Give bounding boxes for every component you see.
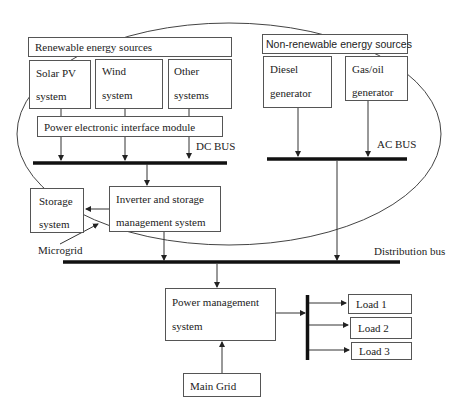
ac-bus-label: AC BUS xyxy=(377,138,416,150)
inverter-label-1: Inverter and storage xyxy=(116,193,204,205)
wind-label-2: system xyxy=(102,89,133,101)
solar-pv-box: Solar PV system xyxy=(29,60,91,109)
dc-bus-label: DC BUS xyxy=(196,140,235,152)
gas-oil-generator-box: Gas/oil generator xyxy=(345,56,408,101)
other-systems-label-1: Other xyxy=(174,65,199,77)
solar-pv-label-1: Solar PV xyxy=(36,67,76,79)
diesel-generator-label-1: Diesel xyxy=(270,63,298,75)
load-3-box: Load 3 xyxy=(351,342,412,360)
gas-oil-generator-label-2: generator xyxy=(352,86,394,98)
load-1-label: Load 1 xyxy=(356,298,387,310)
diesel-generator-box: Diesel generator xyxy=(263,56,332,108)
other-systems-box: Other systems xyxy=(168,59,232,109)
wind-label-1: Wind xyxy=(102,65,126,77)
distribution-bus-label: Distribution bus xyxy=(374,245,445,257)
power-management-label-1: Power management xyxy=(172,296,259,308)
load-1-box: Load 1 xyxy=(348,294,412,314)
wind-box: Wind system xyxy=(95,59,163,109)
inverter-storage-management-box: Inverter and storage management system xyxy=(109,186,221,232)
renewable-sources-header: Renewable energy sources xyxy=(28,37,232,57)
storage-system-box: Storage system xyxy=(30,188,84,233)
power-management-label-2: system xyxy=(172,320,203,332)
renewable-sources-label: Renewable energy sources xyxy=(35,41,152,53)
solar-pv-label-2: system xyxy=(36,90,67,102)
load-2-label: Load 2 xyxy=(358,322,389,334)
storage-system-label-1: Storage xyxy=(39,195,73,207)
load-2-box: Load 2 xyxy=(350,317,412,339)
non-renewable-sources-header: Non-renewable energy sources xyxy=(262,34,408,54)
main-grid-box: Main Grid xyxy=(183,373,261,397)
microgrid-label: Microgrid xyxy=(38,244,83,256)
power-management-system-box: Power management system xyxy=(165,288,276,341)
non-renewable-sources-label: Non-renewable energy sources xyxy=(266,38,412,50)
storage-system-label-2: system xyxy=(39,218,70,230)
other-systems-label-2: systems xyxy=(174,89,209,101)
diesel-generator-label-2: generator xyxy=(270,87,312,99)
load-3-label: Load 3 xyxy=(359,345,390,357)
interface-module-label: Power electronic interface module xyxy=(44,121,195,133)
power-electronic-interface-module: Power electronic interface module xyxy=(37,116,223,137)
gas-oil-generator-label-1: Gas/oil xyxy=(352,63,384,75)
inverter-label-2: management system xyxy=(116,216,206,228)
main-grid-label: Main Grid xyxy=(190,380,236,392)
